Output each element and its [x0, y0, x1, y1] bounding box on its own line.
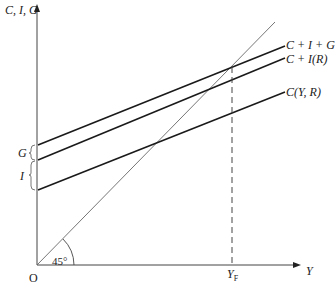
consumption-line	[38, 92, 285, 190]
y-axis-label: C, I, G	[5, 4, 38, 16]
i-label: I	[20, 170, 24, 182]
full-employment-label: YF	[227, 268, 238, 283]
yf-main: Y	[227, 267, 234, 281]
yf-subscript: F	[234, 274, 238, 283]
aggregate-demand-label: C + I + G	[286, 39, 335, 51]
consumption-label: C(Y, R)	[286, 86, 321, 98]
x-axis-label: Y	[306, 265, 313, 277]
origin-label: O	[29, 272, 38, 284]
aggregate-demand-line	[38, 46, 285, 145]
consumption-investment-line	[38, 58, 285, 160]
g-brace	[29, 145, 35, 160]
angle-label: 45°	[52, 256, 67, 267]
i-brace	[29, 161, 35, 190]
g-label: G	[18, 147, 27, 159]
consumption-investment-label: C + I(R)	[286, 53, 327, 65]
